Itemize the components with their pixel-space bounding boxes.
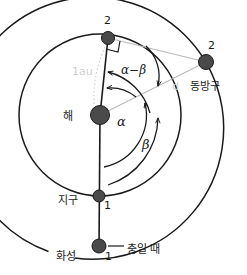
earth-position-1-label: 1 <box>104 199 111 212</box>
mars-position-2-body <box>199 55 214 70</box>
angle-alpha-minus-beta-label: α−β <box>121 63 146 77</box>
angle-alpha-minus-beta-arc <box>146 46 159 86</box>
earth-position-2-body <box>102 32 115 45</box>
mars-position-2-label: 2 <box>208 39 215 52</box>
mars-position-1-body <box>92 239 106 253</box>
angle-alpha-label: α <box>117 114 126 129</box>
sun-to-opposition-line <box>99 115 100 248</box>
eastern-quadrature-label: 동방구 <box>190 77 220 93</box>
astronomy-diagram: 2 2 동방구 1au d α−β 해 α β 지구 1 화성 1 충일 때 <box>0 0 247 275</box>
one-au-label: 1au <box>72 65 93 78</box>
opposition-label: 충일 때 <box>127 240 161 256</box>
sun-label: 해 <box>63 107 73 123</box>
angle-alpha-arc-tail <box>107 88 136 97</box>
angle-alpha-arc <box>104 103 146 167</box>
sun-body <box>91 106 110 125</box>
angle-beta-label: β <box>142 137 150 152</box>
distance-d-label: d <box>172 80 179 93</box>
angle-beta-arc <box>108 118 158 185</box>
mars-label: 화성 <box>56 247 76 263</box>
earth-position-2-label: 2 <box>104 14 111 27</box>
mars-position-1-label: 1 <box>105 250 112 263</box>
earth-label: 지구 <box>58 191 78 207</box>
